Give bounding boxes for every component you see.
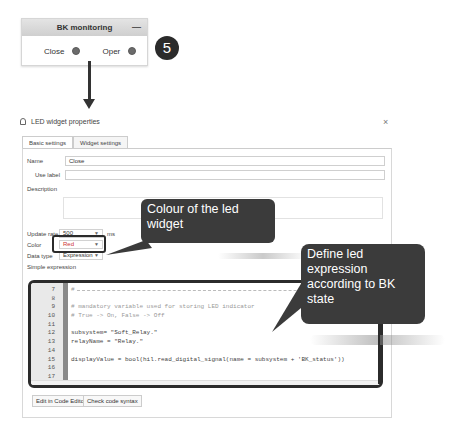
check-code-syntax-button[interactable]: Check code syntax <box>83 395 142 407</box>
tab-basic-settings[interactable]: Basic settings <box>22 136 73 148</box>
description-label: Description <box>27 186 57 192</box>
bk-widget-header: BK monitoring — <box>22 19 147 36</box>
down-arrow-icon <box>88 61 91 101</box>
callout-expression: Define led expression according to BK st… <box>301 244 425 324</box>
name-label: Name <box>27 158 43 164</box>
minimize-icon[interactable]: — <box>132 19 141 36</box>
led-indicator-icon <box>128 47 136 55</box>
chevron-down-icon: ▼ <box>94 252 99 259</box>
bk-monitoring-widget: BK monitoring — Close Oper <box>21 18 148 66</box>
callout-connector-line <box>378 324 380 384</box>
simple-expression-label: Simple expression <box>27 264 76 270</box>
edit-in-code-editor-button[interactable]: Edit in Code Editor <box>32 395 90 407</box>
led-oper-label: Oper <box>102 47 120 56</box>
bell-icon <box>20 118 26 125</box>
led-close-label: Close <box>44 47 64 56</box>
name-input[interactable]: Close <box>65 156 385 166</box>
color-label: Color <box>27 242 41 248</box>
data-type-label: Data type <box>27 253 53 259</box>
code-line: 16 <box>31 364 380 373</box>
dialog-title-bar: LED widget properties <box>20 118 100 125</box>
tab-widget-settings[interactable]: Widget settings <box>73 136 128 148</box>
color-highlight-frame <box>52 235 106 253</box>
settings-tabs: Basic settings Widget settings <box>22 136 128 148</box>
step-number-badge: 5 <box>155 36 179 60</box>
code-line: 14 <box>31 347 380 356</box>
led-oper[interactable]: Oper <box>102 47 136 56</box>
horizontal-scrollbar[interactable] <box>31 380 380 385</box>
down-arrow-head-icon <box>83 99 95 109</box>
use-label-input[interactable] <box>65 170 385 180</box>
callout-color: Colour of the led widget <box>141 199 275 243</box>
close-icon[interactable]: × <box>383 117 388 127</box>
led-indicator-icon <box>72 47 80 55</box>
led-close[interactable]: Close <box>44 47 80 56</box>
code-line: 15displayValue = bool(hil.read_digital_s… <box>31 356 380 365</box>
update-rate-unit: ms <box>107 231 115 237</box>
dialog-title: LED widget properties <box>31 118 100 125</box>
use-label-label: Use label <box>35 172 60 178</box>
bk-widget-title: BK monitoring <box>57 23 113 32</box>
decorative-blur <box>218 253 308 259</box>
